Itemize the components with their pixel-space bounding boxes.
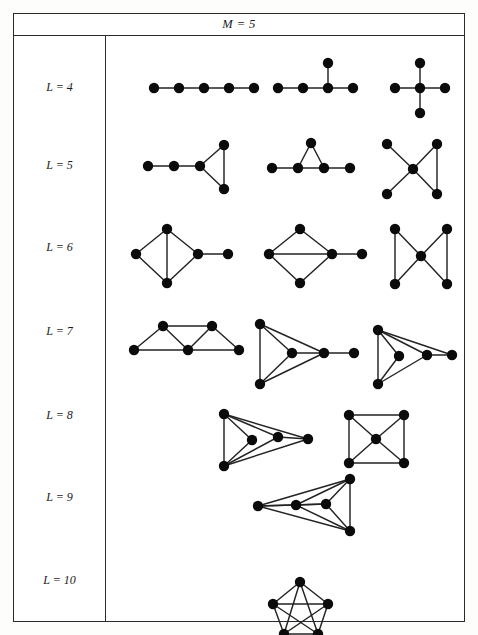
graph-edge [395, 229, 421, 256]
graph-node [131, 249, 141, 259]
graph-edge [269, 254, 300, 283]
graph-node [373, 379, 383, 389]
graph-node [223, 249, 233, 259]
graph-node [183, 345, 193, 355]
graph-edge [284, 582, 300, 634]
graph-drawings [106, 36, 465, 622]
graph-edge [258, 506, 350, 531]
graph-node [447, 350, 457, 360]
graph-node [149, 83, 159, 93]
graph-node [293, 163, 303, 173]
graph-node [399, 458, 409, 468]
graph-node [219, 409, 229, 419]
graph-node [264, 249, 274, 259]
graph-node [348, 83, 358, 93]
graph-node [219, 461, 229, 471]
graph-edge [376, 439, 404, 463]
graph-node [415, 83, 425, 93]
graph-node [247, 435, 257, 445]
graph-node [219, 184, 229, 194]
graph-edge [378, 330, 427, 355]
graph-node [327, 249, 337, 259]
graph-edge [387, 169, 413, 194]
graph-edge [260, 324, 292, 353]
graph-node [158, 321, 168, 331]
graph-node [267, 163, 277, 173]
graph-k5-complete [268, 577, 333, 635]
graph-node [371, 434, 381, 444]
graph-node [344, 458, 354, 468]
graph-node [357, 249, 367, 259]
row-label-8: L = 8 [14, 408, 105, 423]
graph-node [382, 189, 392, 199]
graph-node [162, 224, 172, 234]
graph-edge [395, 256, 421, 284]
graph-node [306, 138, 316, 148]
graph-node [319, 348, 329, 358]
graph-path-p5 [149, 83, 259, 93]
graph-cross-with-triangle [382, 139, 442, 199]
graph-diamond-with-pendant [131, 224, 233, 288]
graph-node [422, 350, 432, 360]
graph-node [442, 224, 452, 234]
graph-node [415, 108, 425, 118]
row-label-5: L = 5 [14, 158, 105, 173]
graph-node [313, 629, 323, 635]
graph-triangle-with-two-tail [143, 140, 229, 194]
graph-node [399, 410, 409, 420]
graph-edge [349, 415, 376, 439]
row-label-9: L = 9 [14, 490, 105, 505]
graph-edge [136, 254, 167, 283]
graph-node [249, 83, 259, 93]
graph-diamond-horizontal-diagonal-pendant [264, 224, 367, 288]
graph-node [382, 139, 392, 149]
graph-node [295, 224, 305, 234]
graph-edge [387, 144, 413, 169]
graph-t-shape-tree [273, 58, 358, 93]
graph-catalogue-figure: M = 5 L = 4L = 5L = 6L = 7L = 8L = 9L = … [0, 0, 478, 635]
graph-node [432, 189, 442, 199]
graph-fan-with-outer-node [373, 325, 457, 389]
graph-node [273, 432, 283, 442]
graph-near-complete-kite [219, 409, 313, 471]
graph-node [432, 139, 442, 149]
graph-edge [273, 604, 318, 634]
graph-node [224, 83, 234, 93]
row-label-column: L = 4L = 5L = 6L = 7L = 8L = 9L = 10 [14, 36, 105, 622]
graph-node [255, 319, 265, 329]
graph-k5-minus-one-edge [253, 474, 355, 536]
graph-triangle-with-inner-hub-pendant [255, 319, 359, 389]
graph-edge [376, 415, 404, 439]
figure-header: M = 5 [14, 14, 464, 36]
figure-frame: M = 5 L = 4L = 5L = 6L = 7L = 8L = 9L = … [13, 13, 465, 622]
header-title: M = 5 [222, 17, 255, 32]
graph-node [234, 345, 244, 355]
graph-node [255, 379, 265, 389]
row-label-4: L = 4 [14, 80, 105, 95]
graph-edge [167, 254, 198, 283]
graph-node [169, 161, 179, 171]
graph-node [295, 577, 305, 587]
graph-edge [421, 256, 447, 284]
graph-panel [106, 36, 465, 622]
graph-edge [269, 229, 300, 254]
graph-node [174, 83, 184, 93]
graph-node [129, 345, 139, 355]
row-label-6: L = 6 [14, 240, 105, 255]
graph-node [195, 161, 205, 171]
graph-node [291, 500, 301, 510]
graph-node [295, 278, 305, 288]
graph-edge [378, 330, 452, 355]
graph-node [162, 278, 172, 288]
graph-node [287, 348, 297, 358]
graph-node [303, 434, 313, 444]
graph-node [394, 351, 404, 361]
graph-node [253, 501, 263, 511]
graph-edge [136, 229, 167, 254]
graph-triangular-strip [129, 321, 244, 355]
graph-edge [260, 353, 292, 384]
graph-node [390, 279, 400, 289]
graph-node [349, 348, 359, 358]
graph-edge [284, 604, 328, 634]
graph-node [298, 83, 308, 93]
